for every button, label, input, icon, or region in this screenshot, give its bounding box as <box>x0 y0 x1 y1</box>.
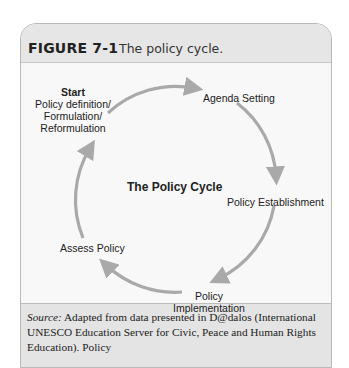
stage-start-line-1: Policy definition/ <box>27 98 119 110</box>
arrow-start-to-agenda <box>108 86 194 113</box>
arrow-establishment-to-implementation <box>218 206 274 279</box>
stage-agenda-line-1: Agenda Setting <box>203 92 275 104</box>
arrow-assess-to-start <box>75 148 90 238</box>
stage-start-line-3: Reformulation <box>27 122 119 134</box>
stage-policy-establishment: Policy Establishment <box>227 196 324 208</box>
stage-establishment-line-1: Policy Establishment <box>227 196 324 208</box>
stage-implementation-line-2: Implementation <box>173 302 245 314</box>
stage-start-line-2: Formulation/ <box>27 110 119 122</box>
stage-start-heading: Start <box>61 86 85 98</box>
stage-start: Start Policy definition/ Formulation/ Re… <box>27 86 119 134</box>
diagram-title: The Policy Cycle <box>127 180 222 194</box>
arrow-agenda-to-establishment <box>237 103 276 176</box>
stage-assess-policy: Assess Policy <box>60 242 125 254</box>
arrow-implementation-to-assess <box>106 265 182 292</box>
stage-assess-line-1: Assess Policy <box>60 242 125 254</box>
stage-agenda-setting: Agenda Setting <box>203 92 275 104</box>
stage-policy-implementation: Policy Implementation <box>173 290 245 314</box>
stage-implementation-line-1: Policy <box>173 290 245 302</box>
